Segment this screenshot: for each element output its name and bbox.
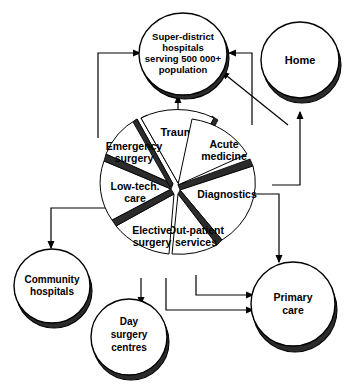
connector-out-patient-to-primary-care bbox=[196, 275, 253, 295]
node-super-district-hospitals-line3: serving 500 000+ bbox=[145, 53, 222, 64]
node-community-hospitals[interactable]: Community hospitals bbox=[14, 249, 92, 328]
node-day-surgery-centres-line3: centres bbox=[111, 342, 147, 353]
pie-slice-diagnostics-label: Diagnostics bbox=[197, 188, 257, 200]
connector-diagnostics-to-primary-care bbox=[253, 194, 279, 262]
pie-slice-elective-surgery-label-line2: surgery bbox=[133, 236, 172, 248]
pie-slice-elective-surgery-label-line1: Elective bbox=[132, 224, 172, 236]
node-day-surgery-centres-line2: surgery bbox=[111, 329, 148, 340]
node-primary-care[interactable]: Primary care bbox=[251, 262, 337, 352]
node-day-surgery-centres[interactable]: Day surgery centres bbox=[91, 299, 169, 380]
pie-slice-acute-medicine-label-line2: medicine bbox=[201, 150, 247, 162]
node-super-district-hospitals-line2: hospitals bbox=[162, 42, 204, 53]
node-home-label: Home bbox=[285, 54, 316, 66]
connector-elective-surgery-to-primary-care bbox=[166, 278, 253, 310]
diagram-canvas: Trauma Acute medicine Diagnostics Out-pa… bbox=[0, 0, 356, 389]
node-community-hospitals-line1: Community bbox=[25, 274, 80, 285]
pie-slice-out-patient-label-line1: Out-patient bbox=[168, 224, 224, 236]
pie-slice-low-tech-care-label-line2: care bbox=[124, 192, 146, 204]
node-day-surgery-centres-line1: Day bbox=[120, 316, 139, 327]
node-primary-care-line1: Primary bbox=[273, 291, 312, 303]
node-super-district-hospitals-line1: Super-district bbox=[152, 31, 215, 42]
node-primary-care-line2: care bbox=[282, 304, 304, 316]
diagram-svg: Trauma Acute medicine Diagnostics Out-pa… bbox=[0, 0, 356, 389]
pie-slice-low-tech-care-label-line1: Low-tech. bbox=[111, 180, 160, 192]
pie-chart: Trauma Acute medicine Diagnostics Out-pa… bbox=[100, 110, 257, 255]
node-super-district-hospitals-line4: population bbox=[159, 64, 208, 75]
connector-home-to-super-district bbox=[229, 53, 252, 125]
pie-slice-emergency-surgery-label-line2: surgery bbox=[115, 152, 154, 164]
pie-slice-out-patient-label-line2: services bbox=[175, 236, 217, 248]
pie-slice-emergency-surgery-label-line1: Emergency bbox=[106, 140, 163, 152]
node-community-hospitals-line2: hospitals bbox=[30, 286, 74, 297]
node-super-district-hospitals[interactable]: Super-district hospitals serving 500 000… bbox=[139, 13, 229, 99]
pie-slice-acute-medicine-label-line1: Acute bbox=[209, 138, 238, 150]
node-home[interactable]: Home bbox=[261, 22, 341, 103]
connector-low-tech-care-to-community bbox=[51, 208, 108, 248]
